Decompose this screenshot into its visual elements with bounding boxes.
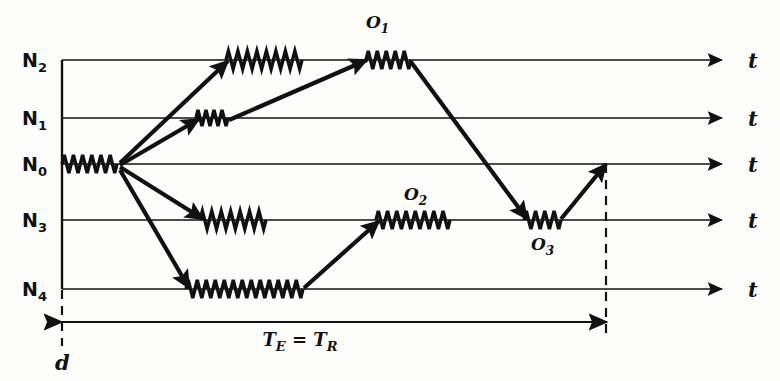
time-axis-label-4: t [748, 208, 758, 233]
emission-label-o2: O2 [404, 184, 427, 208]
wiggle-N1 [196, 110, 228, 126]
figure-canvas: N2N1N0N3N4tttttO1O2O3TE = TRd [0, 0, 780, 381]
level-label-n2: N2 [22, 49, 47, 75]
transition-diagram: N2N1N0N3N4tttttO1O2O3TE = TRd [0, 0, 780, 381]
level-label-n1: N1 [22, 107, 47, 133]
emission-label-o1: O1 [366, 12, 389, 36]
wiggle-O3 [524, 211, 561, 229]
level-label-n0: N0 [22, 153, 47, 179]
wiggle-N0-initial [62, 155, 117, 173]
wiggle-group [62, 51, 561, 298]
level-label-n3: N3 [22, 209, 47, 235]
time-axis-label-3: t [748, 152, 758, 177]
time-axis-label-5: t [748, 277, 758, 302]
emission-label-o3: O3 [531, 234, 554, 258]
time-span-label: TE = TR [262, 329, 337, 354]
level-axes-group [62, 60, 722, 289]
wiggle-N3-first [200, 211, 266, 229]
level-label-n4: N4 [22, 278, 47, 304]
time-axis-label-2: t [748, 106, 758, 131]
transition-N4-to-O2 [304, 221, 379, 288]
transition-O3-to-N0 [561, 164, 606, 219]
dashed-guide-group [62, 164, 606, 346]
origin-depth-label: d [55, 350, 70, 375]
wiggle-N4 [186, 280, 303, 298]
transition-O1-to-O3 [411, 62, 527, 219]
time-axis-label-1: t [748, 48, 758, 73]
